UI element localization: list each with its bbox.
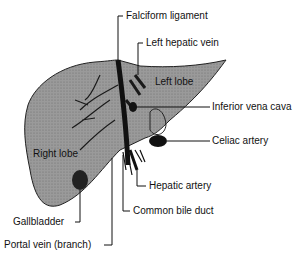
inferior-vena-cava-label: Inferior vena cava [212,101,292,113]
gallbladder-label: Gallbladder [13,216,64,228]
hepatic-artery-label: Hepatic artery [149,180,211,192]
falciform-ligament-label: Falciform ligament [126,10,208,22]
left-lobe-label: Left lobe [155,76,193,87]
celiac-artery-label: Celiac artery [212,135,268,147]
left-hepatic-vein-label: Left hepatic vein [146,37,219,49]
common-bile-duct-label: Common bile duct [133,205,214,217]
right-lobe-label: Right lobe [33,148,78,159]
portal-vein-label: Portal vein (branch) [4,239,91,251]
